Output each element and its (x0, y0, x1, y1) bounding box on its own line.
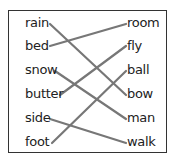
right-word: fly (127, 39, 142, 53)
left-word: snow (25, 63, 57, 77)
right-word: room (127, 16, 159, 30)
right-word: walk (127, 135, 156, 149)
right-word: ball (127, 63, 149, 77)
left-word: butter (25, 87, 63, 101)
line-side-walk (50, 119, 126, 143)
left-word: foot (25, 135, 49, 149)
right-word: bow (127, 87, 153, 101)
line-butter-fly (60, 46, 126, 95)
line-snow-man (55, 71, 126, 119)
left-word: side (25, 111, 50, 125)
right-word: man (127, 111, 155, 125)
left-word: bed (25, 39, 49, 53)
left-word: rain (25, 16, 49, 30)
